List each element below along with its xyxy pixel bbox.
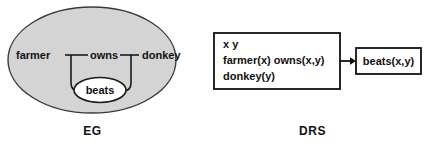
eg-caption: EG <box>0 124 185 138</box>
eg-node-label-donkey: donkey <box>142 49 181 61</box>
drs-consequent-condition: beats(x,y) <box>363 55 415 67</box>
eg-node-label-beats: beats <box>86 84 115 96</box>
eg-diagram: farmer owns donkey beats <box>0 0 200 122</box>
drs-panel: x y farmer(x) owns(x,y) donkey(y) beats(… <box>205 0 427 150</box>
drs-caption: DRS <box>205 124 420 138</box>
drs-discourse-referents: x y <box>223 38 239 50</box>
figure-eg-drs-comparison: farmer owns donkey beats EG x y farmer(x… <box>0 0 427 150</box>
drs-condition-line-1: farmer(x) owns(x,y) <box>223 54 325 66</box>
drs-diagram: x y farmer(x) owns(x,y) donkey(y) beats(… <box>205 0 427 122</box>
eg-node-label-owns: owns <box>90 49 118 61</box>
drs-implication-arrow-icon <box>340 57 356 65</box>
eg-node-label-farmer: farmer <box>16 49 51 61</box>
eg-panel: farmer owns donkey beats EG <box>0 0 200 150</box>
drs-condition-line-2: donkey(y) <box>223 70 275 82</box>
